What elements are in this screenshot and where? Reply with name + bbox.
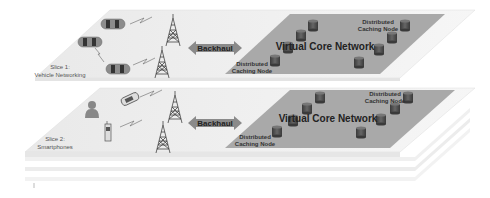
backhaul-label-2: Backhaul [197, 119, 233, 128]
caching-node-label-bottom-1a: Caching Node [358, 26, 399, 32]
caching-node-label-bottom-2b: Caching Node [235, 141, 276, 147]
caching-node-label-top-1a: Distributed [362, 19, 394, 25]
caching-node-icon [315, 91, 325, 103]
slice-1-layer: Slice 1: Vehicle Networking Backhaul Vir… [34, 10, 475, 81]
car-icon [78, 37, 102, 47]
caching-node-icon [400, 19, 410, 31]
caching-node-label-top-2b: Distributed [239, 134, 271, 140]
caching-node-icon [308, 19, 318, 31]
caching-node-icon [387, 31, 397, 43]
caching-node-icon [390, 102, 400, 114]
slice-2-title: Slice 2: [45, 136, 65, 142]
caching-node-icon [272, 125, 282, 137]
caching-node-label-top-2a: Distributed [369, 91, 401, 97]
virtual-core-network-label-1: Virtual Core Network [276, 41, 375, 52]
caching-node-icon [376, 113, 386, 125]
backhaul-label-1: Backhaul [197, 44, 233, 53]
network-slicing-diagram: Slice 1: Vehicle Networking Backhaul Vir… [0, 0, 490, 198]
caching-node-icon [296, 29, 306, 41]
mobile-phone-icon [105, 121, 111, 141]
slice-1-title: Slice 1: [50, 64, 70, 70]
slice-2-subtitle: Smartphones [37, 144, 73, 150]
caching-node-icon [356, 126, 366, 138]
caching-node-icon [354, 56, 364, 68]
slice-2-layer: Slice 2: Smartphones Backhaul Virtual Co… [25, 88, 475, 188]
caching-node-icon [270, 54, 280, 66]
car-icon [101, 19, 125, 29]
car-icon [106, 64, 130, 74]
caching-node-label-top-1b: Distributed [236, 61, 268, 67]
slice-1-subtitle: Vehicle Networking [34, 72, 85, 78]
caching-node-label-bottom-2a: Caching Node [365, 98, 406, 104]
caching-node-label-bottom-1b: Caching Node [232, 68, 273, 74]
virtual-core-network-label-2: Virtual Core Network [279, 113, 378, 124]
caching-node-icon [374, 43, 384, 55]
